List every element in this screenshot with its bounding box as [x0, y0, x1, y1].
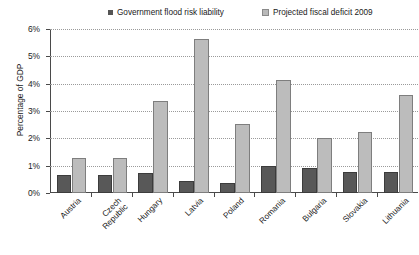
x-axis-labels: AustriaCzech RepublicHungaryLatviaPoland… [50, 196, 418, 254]
bar [194, 39, 209, 193]
y-axis-tick-label: 6% [28, 25, 40, 33]
y-axis-tick-label: 0% [28, 189, 40, 197]
bar-chart: Government flood risk liability Projecte… [0, 0, 419, 255]
legend-label: Projected fiscal deficit 2009 [273, 8, 373, 17]
bar [57, 175, 72, 193]
bar [153, 101, 168, 193]
y-axis-tick-label: 2% [28, 134, 40, 142]
bar [317, 138, 332, 193]
bar-group [50, 29, 91, 193]
x-axis-label: Slovakia [341, 196, 370, 225]
legend-item-projected-fiscal-deficit-2009: Projected fiscal deficit 2009 [262, 8, 373, 17]
bar [138, 173, 153, 193]
y-axis-tick: 0% [46, 193, 50, 194]
bar [343, 172, 358, 193]
bar-group [377, 29, 418, 193]
bar [179, 181, 194, 193]
x-axis-label: Poland [221, 196, 246, 221]
legend-swatch-light-icon [262, 9, 269, 16]
x-axis-label: Latvia [184, 196, 206, 218]
bar [302, 168, 317, 193]
bar-group [295, 29, 336, 193]
bar-group [336, 29, 377, 193]
x-axis-label: Lithuania [380, 196, 410, 226]
y-axis-title: Percentage of GDP [15, 40, 25, 160]
bar-group [173, 29, 214, 193]
bar [113, 158, 128, 193]
x-axis-label: Bulgaria [301, 196, 329, 224]
bar [261, 166, 276, 193]
x-axis-label: Romania [257, 196, 287, 226]
plot-area: 0%1%2%3%4%5%6% [50, 29, 418, 193]
bar-group [132, 29, 173, 193]
chart-legend: Government flood risk liability Projecte… [0, 8, 419, 22]
legend-label: Government flood risk liability [117, 8, 224, 17]
x-axis-label: Czech Republic [95, 196, 131, 232]
y-axis-tick-label: 5% [28, 52, 40, 60]
bar-group [91, 29, 132, 193]
y-axis-tick-label: 1% [28, 162, 40, 170]
bar-group [254, 29, 295, 193]
y-axis-tick-label: 4% [28, 80, 40, 88]
bar [276, 80, 291, 193]
bar [98, 175, 113, 193]
legend-item-government-flood-risk-liability: Government flood risk liability [108, 8, 224, 17]
bar [384, 172, 399, 193]
bar [220, 183, 235, 193]
bar [399, 95, 414, 193]
x-axis-label: Austria [59, 196, 84, 221]
x-axis-label: Hungary [136, 196, 165, 225]
bar [72, 158, 87, 193]
bar-group [214, 29, 255, 193]
bar [235, 124, 250, 193]
y-axis-tick-label: 3% [28, 107, 40, 115]
bar [358, 132, 373, 193]
legend-swatch-dark-icon [108, 10, 113, 15]
